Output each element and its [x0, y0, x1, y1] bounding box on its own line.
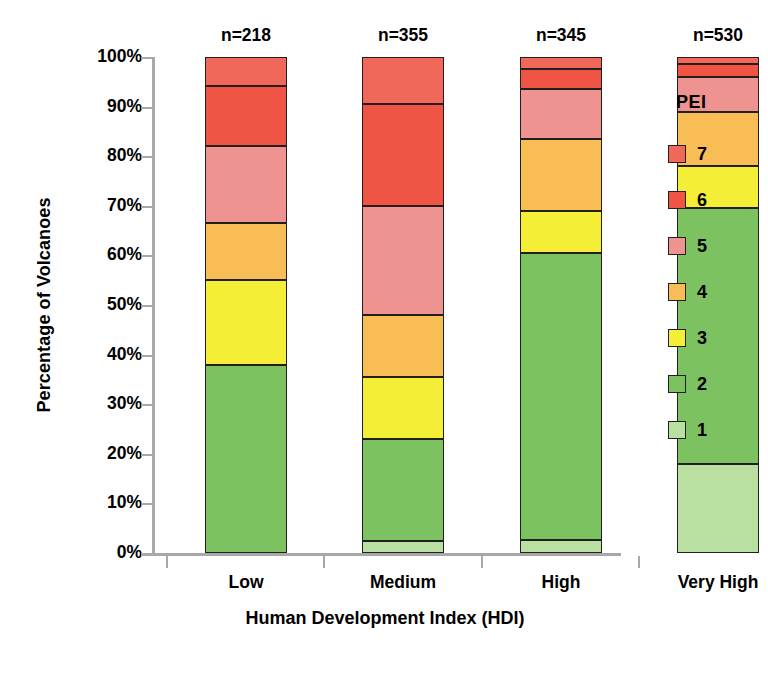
y-axis-tick-label: 40% [58, 346, 142, 364]
bar-segment-pei-6[interactable] [205, 86, 287, 147]
y-axis-tick-mark [141, 255, 153, 257]
bar-segment-pei-2[interactable] [205, 365, 287, 553]
legend-item-pei-2[interactable]: 2 [668, 361, 768, 407]
legend-swatch-icon [668, 283, 686, 301]
x-axis-tick-mark [638, 556, 640, 568]
bar-count-label: n=345 [536, 25, 586, 46]
y-axis-tick-mark [141, 206, 153, 208]
y-axis-tick-label: 20% [58, 445, 142, 463]
legend-item-pei-4[interactable]: 4 [668, 269, 768, 315]
legend-label: 2 [697, 374, 707, 395]
legend-label: 6 [697, 190, 707, 211]
legend-swatch-icon [668, 237, 686, 255]
bar-group-high: n=345 [520, 57, 602, 553]
legend-label: 4 [697, 282, 707, 303]
bar-segment-pei-5[interactable] [520, 89, 602, 139]
y-axis-tick-mark [141, 355, 153, 357]
legend-item-pei-7[interactable]: 7 [668, 131, 768, 177]
y-axis-tick-mark [141, 454, 153, 456]
bar-segment-pei-7[interactable] [362, 57, 444, 104]
bar-segment-pei-7[interactable] [205, 57, 287, 86]
bar-segment-pei-4[interactable] [362, 315, 444, 377]
bar-segment-pei-4[interactable] [205, 223, 287, 280]
legend-label: 5 [697, 236, 707, 257]
legend-label: 1 [697, 420, 707, 441]
bar-segment-pei-6[interactable] [520, 69, 602, 89]
legend-swatch-icon [668, 421, 686, 439]
legend-items: 7654321 [668, 131, 768, 453]
x-axis-title: Human Development Index (HDI) [120, 608, 650, 629]
bar-segment-pei-2[interactable] [520, 253, 602, 540]
bar-count-label: n=530 [693, 25, 743, 46]
y-axis-tick-label: 100% [58, 48, 142, 66]
bar-segment-pei-7[interactable] [677, 57, 759, 64]
bar-count-label: n=218 [221, 25, 271, 46]
legend-swatch-icon [668, 375, 686, 393]
bar-segment-pei-3[interactable] [362, 377, 444, 439]
y-axis-tick-mark [141, 107, 153, 109]
legend: PEI 7654321 [668, 92, 768, 453]
bar-count-label: n=355 [378, 25, 428, 46]
legend-label: 3 [697, 328, 707, 349]
x-axis-tick-mark [166, 556, 168, 568]
x-axis-tick-mark [481, 556, 483, 568]
bar-segment-pei-3[interactable] [520, 211, 602, 253]
x-axis-label-high: High [542, 572, 581, 593]
bar-segment-pei-6[interactable] [677, 64, 759, 76]
bar-segment-pei-1[interactable] [677, 464, 759, 553]
y-axis-tick-mark [141, 404, 153, 406]
y-axis-tick-mark [141, 305, 153, 307]
x-axis-label-medium: Medium [370, 572, 436, 593]
x-axis-label-low: Low [229, 572, 264, 593]
legend-label: 7 [697, 144, 707, 165]
legend-item-pei-6[interactable]: 6 [668, 177, 768, 223]
y-axis-tick-label: 80% [58, 147, 142, 165]
y-axis-tick-mark [141, 553, 153, 555]
y-axis-tick-labels: 0%10%20%30%40%50%60%70%80%90%100% [58, 57, 142, 553]
bar-segment-pei-5[interactable] [205, 146, 287, 223]
legend-title: PEI [676, 92, 768, 113]
y-axis-tick-label: 30% [58, 395, 142, 413]
legend-swatch-icon [668, 329, 686, 347]
bar-segment-pei-3[interactable] [205, 280, 287, 364]
x-axis-label-very-high: Very High [678, 572, 759, 593]
legend-swatch-icon [668, 145, 686, 163]
bar-segment-pei-5[interactable] [362, 206, 444, 315]
y-axis-tick-label: 70% [58, 197, 142, 215]
y-axis-tick-label: 10% [58, 495, 142, 513]
bar-stack [205, 57, 287, 553]
x-axis-line [141, 553, 621, 556]
bar-segment-pei-2[interactable] [362, 439, 444, 541]
bar-segment-pei-6[interactable] [362, 104, 444, 206]
legend-item-pei-3[interactable]: 3 [668, 315, 768, 361]
y-axis-tick-mark [141, 156, 153, 158]
y-axis-tick-label: 60% [58, 247, 142, 265]
bar-group-low: n=218 [205, 57, 287, 553]
bar-stack [362, 57, 444, 553]
y-axis-tick-label: 0% [58, 544, 142, 562]
bar-segment-pei-7[interactable] [520, 57, 602, 69]
y-axis-tick-mark [141, 57, 153, 59]
plot-area: n=218n=355n=345n=530 [155, 57, 621, 553]
stacked-bar-chart: Percentage of Volcanoes 0%10%20%30%40%50… [0, 0, 768, 673]
y-axis-tick-label: 50% [58, 296, 142, 314]
bar-segment-pei-4[interactable] [520, 139, 602, 211]
legend-swatch-icon [668, 191, 686, 209]
y-axis-tick-mark [141, 503, 153, 505]
bar-segment-pei-1[interactable] [362, 541, 444, 553]
x-axis-tick-mark [323, 556, 325, 568]
bar-group-medium: n=355 [362, 57, 444, 553]
x-axis-category-labels: LowMediumHighVery High [155, 572, 621, 600]
legend-item-pei-1[interactable]: 1 [668, 407, 768, 453]
y-axis-tick-label: 90% [58, 98, 142, 116]
bar-stack [520, 57, 602, 553]
legend-item-pei-5[interactable]: 5 [668, 223, 768, 269]
bar-segment-pei-1[interactable] [520, 540, 602, 553]
